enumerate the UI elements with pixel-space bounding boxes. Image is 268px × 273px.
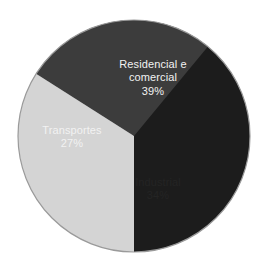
pie-chart-canvas [0,0,268,273]
pie-chart: Residencial e comercial 39% Transportes … [0,0,268,273]
pie-slices [18,20,250,252]
